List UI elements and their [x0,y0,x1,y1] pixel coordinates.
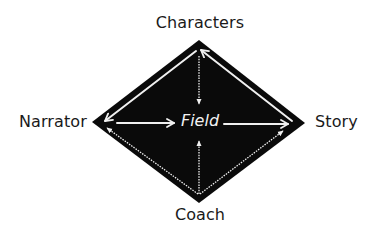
diagram-canvas: Characters Narrator Story Coach Field [0,0,372,232]
node-label-characters: Characters [156,15,244,31]
center-label-field: Field [181,113,219,129]
node-label-narrator: Narrator [19,114,87,130]
node-label-story: Story [315,114,358,130]
node-label-coach: Coach [175,207,225,223]
